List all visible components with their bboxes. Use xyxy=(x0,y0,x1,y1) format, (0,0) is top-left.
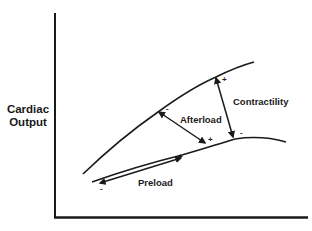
contractility-arrow xyxy=(216,78,233,137)
afterload-plus-sign: + xyxy=(208,136,213,144)
preload-plus-sign: + xyxy=(178,153,183,161)
y-axis-label-line1: Cardiac xyxy=(2,103,54,116)
y-axis-label-line2: Output xyxy=(2,116,54,129)
afterload-label: Afterload xyxy=(180,114,222,125)
y-axis-label: Cardiac Output xyxy=(2,103,54,129)
contractility-label: Contractility xyxy=(233,96,288,107)
preload-minus-sign: - xyxy=(100,185,103,193)
contractility-plus-sign: + xyxy=(222,76,227,84)
contractility-minus-sign: - xyxy=(240,129,243,137)
afterload-minus-sign: - xyxy=(166,105,169,113)
preload-label: Preload xyxy=(138,177,173,188)
lower-curve xyxy=(92,138,286,182)
